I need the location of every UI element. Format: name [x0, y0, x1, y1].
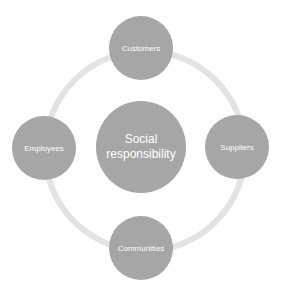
node-communities: Communities — [109, 216, 173, 280]
node-customers: Customers — [109, 16, 173, 80]
node-communities-label: Communities — [118, 244, 165, 253]
node-customers-label: Customers — [122, 44, 161, 53]
center-label-line2: responsibility — [106, 147, 175, 162]
node-employees-label: Employees — [24, 144, 64, 153]
node-suppliers-label: Suppliers — [220, 143, 253, 152]
node-social-responsibility: Social responsibility — [96, 101, 186, 193]
center-label-line1: Social — [106, 132, 175, 147]
node-employees: Employees — [12, 116, 76, 180]
node-suppliers: Suppliers — [205, 115, 269, 179]
